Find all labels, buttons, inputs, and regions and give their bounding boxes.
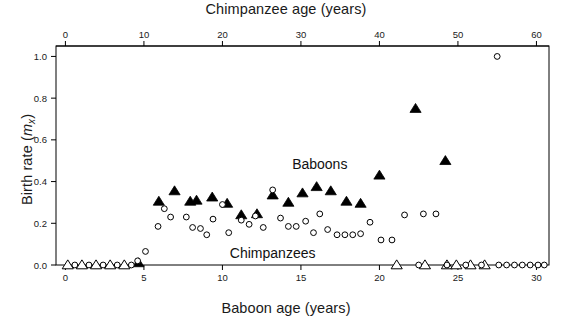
data-point-baboon <box>169 186 180 195</box>
x-axis-tick-label-top: 50 <box>453 29 464 40</box>
data-point-chimpanzee <box>246 221 252 227</box>
data-point-baboon <box>391 260 402 269</box>
y-axis-tick-label: 0.8 <box>34 93 47 104</box>
data-point-chimpanzee <box>128 262 134 268</box>
data-point-chimpanzee <box>535 262 541 268</box>
data-point-chimpanzee <box>285 224 291 230</box>
data-point-chimpanzee <box>198 226 204 232</box>
scatter-plot-canvas: 05101520253001020304050600.00.20.40.60.8… <box>0 0 572 328</box>
x-axis-tick-label-top: 10 <box>139 29 150 40</box>
data-point-baboon <box>283 197 294 206</box>
data-point-chimpanzee <box>260 225 266 231</box>
data-point-chimpanzee <box>168 214 174 220</box>
data-point-chimpanzee <box>293 224 299 230</box>
y-axis-tick-label: 1.0 <box>34 51 47 62</box>
data-point-baboon <box>325 186 336 195</box>
data-point-chimpanzee <box>253 213 259 219</box>
data-point-chimpanzee <box>114 262 120 268</box>
data-point-chimpanzee <box>512 262 518 268</box>
data-point-chimpanzee <box>463 262 469 268</box>
data-point-baboon <box>374 170 385 179</box>
x-axis-tick-label-bottom: 15 <box>296 272 307 283</box>
data-point-baboon <box>355 198 366 207</box>
data-point-chimpanzee <box>238 217 244 223</box>
data-point-chimpanzee <box>527 262 533 268</box>
data-point-baboon <box>440 156 451 165</box>
data-point-chimpanzee <box>541 262 547 268</box>
data-point-chimpanzee <box>325 227 331 233</box>
data-point-chimpanzee <box>494 54 500 60</box>
data-point-chimpanzee <box>389 237 395 243</box>
y-axis-tick-label: 0.0 <box>34 260 47 271</box>
data-point-baboon <box>297 188 308 197</box>
y-axis-tick-label: 0.4 <box>34 176 47 187</box>
data-point-chimpanzee <box>278 215 284 221</box>
data-point-chimpanzee <box>100 262 106 268</box>
data-point-baboon <box>451 260 462 269</box>
data-point-chimpanzee <box>479 262 485 268</box>
data-point-chimpanzee <box>342 232 348 238</box>
data-point-chimpanzee <box>155 224 161 230</box>
x-axis-tick-label-bottom: 25 <box>453 272 464 283</box>
x-axis-tick-label-bottom: 5 <box>141 272 146 283</box>
data-point-chimpanzee <box>190 225 196 231</box>
x-axis-tick-label-bottom: 10 <box>217 272 228 283</box>
series-label-chimpanzees: Chimpanzees <box>230 245 316 261</box>
data-point-chimpanzee <box>420 211 426 217</box>
data-point-chimpanzee <box>416 262 422 268</box>
data-point-chimpanzee <box>311 230 317 236</box>
data-point-chimpanzee <box>350 232 356 238</box>
data-point-chimpanzee <box>72 262 78 268</box>
x-axis-tick-label-bottom: 30 <box>531 272 542 283</box>
y-axis-tick-label: 0.6 <box>34 134 47 145</box>
chart-figure: Chimpanzee age (years) Baboon age (years… <box>0 0 572 328</box>
data-point-chimpanzee <box>143 249 149 255</box>
data-point-chimpanzee <box>317 211 323 217</box>
data-point-chimpanzee <box>161 206 167 212</box>
data-point-baboon <box>410 103 421 112</box>
data-point-chimpanzee <box>402 212 408 218</box>
data-point-chimpanzee <box>220 202 226 208</box>
series-label-baboons: Baboons <box>292 156 347 172</box>
data-point-chimpanzee <box>303 218 309 224</box>
data-point-chimpanzee <box>519 262 525 268</box>
data-point-chimpanzee <box>334 232 340 238</box>
data-point-baboon <box>341 196 352 205</box>
data-point-chimpanzee <box>444 262 450 268</box>
data-point-baboon <box>207 192 218 201</box>
data-point-chimpanzee <box>183 214 189 220</box>
data-point-chimpanzee <box>204 232 210 238</box>
data-point-chimpanzee <box>135 258 141 264</box>
x-axis-tick-label-top: 0 <box>63 29 68 40</box>
data-point-chimpanzee <box>358 231 364 237</box>
data-point-chimpanzee <box>210 216 216 222</box>
data-point-chimpanzee <box>504 262 510 268</box>
x-axis-tick-label-top: 20 <box>217 29 228 40</box>
x-axis-tick-label-top: 30 <box>296 29 307 40</box>
data-point-chimpanzee <box>226 230 232 236</box>
data-point-baboon <box>153 196 164 205</box>
data-point-chimpanzee <box>367 219 373 225</box>
data-point-baboon <box>311 182 322 191</box>
data-point-chimpanzee <box>433 211 439 217</box>
data-point-chimpanzee <box>86 262 92 268</box>
data-point-chimpanzee <box>270 187 276 193</box>
y-axis-tick-label: 0.2 <box>34 218 47 229</box>
x-axis-tick-label-bottom: 20 <box>374 272 385 283</box>
data-point-chimpanzee <box>496 262 502 268</box>
data-point-chimpanzee <box>378 237 384 243</box>
x-axis-tick-label-top: 40 <box>374 29 385 40</box>
x-axis-tick-label-bottom: 0 <box>63 272 68 283</box>
x-axis-tick-label-top: 60 <box>531 29 542 40</box>
